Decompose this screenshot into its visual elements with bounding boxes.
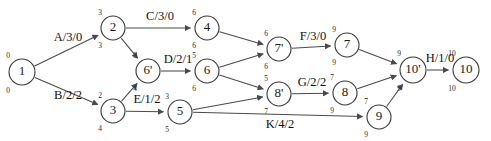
node-earliest-time: 5 xyxy=(264,74,268,83)
node-label: 2 xyxy=(110,19,117,34)
nodes-layer: 1002333246'344666565357'668'577998799791… xyxy=(6,8,479,140)
edge-n3-to-n5 xyxy=(126,111,164,112)
network-diagram-canvas: A/3/0B/2/2C/3/0E/1/2D/2/1F/3/0G/2/2K/4/2… xyxy=(0,0,491,141)
node-10[interactable]: 101010 xyxy=(448,49,479,94)
node-label: 10 xyxy=(460,61,473,76)
node-earliest-time: 0 xyxy=(6,51,10,60)
edge-n6-to-n7p xyxy=(219,54,263,67)
edge-label-e-b: B/2/2 xyxy=(54,88,82,102)
node-latest-time: 9 xyxy=(364,130,368,139)
node-latest-time: 6 xyxy=(264,62,268,71)
node-earliest-time: 3 xyxy=(165,92,169,101)
node-label: 1 xyxy=(19,63,26,78)
edge-label-e-k: K/4/2 xyxy=(266,117,294,131)
edge-n5-to-n9 xyxy=(193,112,363,116)
edge-label-e-a: A/3/0 xyxy=(54,30,82,44)
node-7-prime[interactable]: 7'66 xyxy=(264,29,291,72)
network-diagram-svg: A/3/0B/2/2C/3/0E/1/2D/2/1F/3/0G/2/2K/4/2… xyxy=(0,0,491,141)
node-earliest-time: 3 xyxy=(98,8,102,17)
node-latest-time: 9 xyxy=(397,84,401,93)
edge-label-e-f: F/3/0 xyxy=(300,29,326,43)
edge-n8-to-n10p xyxy=(357,76,396,89)
node-label: 5 xyxy=(177,103,184,118)
node-label: 8 xyxy=(342,84,349,99)
node-8[interactable]: 879 xyxy=(330,73,357,116)
node-label: 7 xyxy=(344,36,351,51)
edge-n5-to-n8p xyxy=(193,97,263,110)
edge-label-e-c: C/3/0 xyxy=(146,9,174,23)
node-label: 8' xyxy=(275,85,284,100)
edge-label-e-e: E/1/2 xyxy=(133,92,160,106)
node-earliest-time: 6 xyxy=(192,8,196,17)
edge-n7p-to-n7 xyxy=(292,46,331,48)
node-latest-time: 5 xyxy=(165,125,169,134)
node-label: 6 xyxy=(204,62,211,77)
node-earliest-time: 9 xyxy=(397,49,401,58)
node-latest-time: 7 xyxy=(264,107,268,116)
node-latest-time: 3 xyxy=(98,41,102,50)
node-latest-time: 4 xyxy=(98,124,102,133)
node-9[interactable]: 979 xyxy=(364,97,391,140)
node-latest-time: 0 xyxy=(6,86,10,95)
node-latest-time: 6 xyxy=(192,84,196,93)
node-2[interactable]: 233 xyxy=(98,8,125,51)
edge-n4-to-n7p xyxy=(219,32,263,45)
edges-layer xyxy=(35,28,449,117)
edge-label-e-g: G/2/2 xyxy=(298,75,326,89)
node-5[interactable]: 535 xyxy=(165,92,192,135)
node-earliest-time: 7 xyxy=(330,73,334,82)
node-1[interactable]: 100 xyxy=(6,51,35,96)
edge-n6-to-n8p xyxy=(219,75,263,89)
node-latest-time: 6 xyxy=(192,41,196,50)
node-earliest-time: 2 xyxy=(98,91,102,100)
node-7[interactable]: 799 xyxy=(332,25,359,68)
node-latest-time: 9 xyxy=(330,106,334,115)
node-earliest-time: 7 xyxy=(364,97,368,106)
node-label: 4 xyxy=(204,19,211,34)
node-label: 6' xyxy=(144,62,153,77)
node-8-prime[interactable]: 8'57 xyxy=(264,74,291,117)
node-6[interactable]: 656 xyxy=(192,51,219,94)
node-earliest-time: 9 xyxy=(332,25,336,34)
node-latest-time: 4 xyxy=(133,84,137,93)
edge-label-e-d: D/2/1 xyxy=(164,52,192,66)
node-label: 7' xyxy=(275,40,284,55)
node-3[interactable]: 324 xyxy=(98,91,125,134)
node-label: 9 xyxy=(376,108,383,123)
node-4[interactable]: 466 xyxy=(192,8,219,51)
node-earliest-time: 10 xyxy=(448,49,456,58)
edge-n7-to-n10p xyxy=(359,50,396,64)
node-latest-time: 10 xyxy=(448,84,456,93)
node-label: 3 xyxy=(110,102,117,117)
node-earliest-time: 5 xyxy=(192,51,196,60)
node-earliest-time: 6 xyxy=(264,29,268,38)
edge-n8p-to-n8 xyxy=(292,93,329,94)
node-latest-time: 9 xyxy=(332,58,336,67)
node-earliest-time: 3 xyxy=(133,51,137,60)
node-label: 10' xyxy=(405,61,420,76)
